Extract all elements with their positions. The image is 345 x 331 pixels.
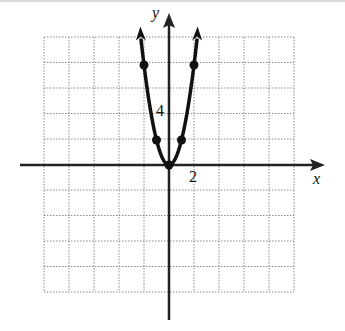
x-tick-label: 2 xyxy=(189,168,197,186)
curve-arrow-icon xyxy=(192,26,202,40)
x-axis-label: x xyxy=(313,170,320,188)
data-point xyxy=(165,161,174,170)
data-point xyxy=(152,136,161,145)
y-tick-label: 4 xyxy=(156,102,164,120)
parabola-graph xyxy=(0,0,345,331)
data-point xyxy=(190,61,199,70)
data-point xyxy=(140,61,149,70)
curve-arrow-icon xyxy=(136,26,146,40)
data-point xyxy=(177,136,186,145)
y-axis-label: y xyxy=(152,4,159,22)
